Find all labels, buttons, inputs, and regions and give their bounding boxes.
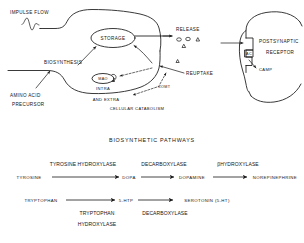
postsynaptic-cell-outline — [246, 12, 302, 103]
mao-catabolism-group: MAO INTRA AND EXTRA CELLULAR CATABOLISM — [92, 68, 165, 111]
compound-norepinephrine: NOREPINEPHRINE — [253, 175, 297, 180]
transmitter-particle — [186, 37, 191, 40]
presynaptic-neuron-outline — [8, 10, 161, 94]
enzyme-tryptophan-hydroxylase-line1: TRYPTOPHAN — [80, 210, 115, 216]
precursor-to-biosynthesis-arrow — [36, 71, 50, 88]
camp-label: CAMP — [259, 67, 272, 72]
reuptake-label: REUPTAKE — [186, 71, 213, 76]
enzyme-decarboxylase-2: DECARBOXYLASE — [142, 210, 188, 216]
precursor-label: PRECURSOR — [12, 102, 45, 107]
compound-dopa: DOPA — [122, 175, 135, 180]
transmitter-particle — [176, 60, 179, 63]
ac-label: AC — [246, 52, 252, 56]
enzyme-tyrosine-hydroxylase: TYROSINE HYDROXYLASE — [50, 161, 117, 167]
comt-dashed-arrow — [160, 73, 166, 84]
catecholamine-pathway-group: TYROSINE HYDROXYLASE DECARBOXYLASE βHYDR… — [16, 161, 297, 180]
neurotransmitter-diagram-figure: IMPULSE FLOW STORAGE BIOSYNTHESIS AMINO … — [0, 0, 304, 243]
mao-label: MAO — [98, 77, 107, 81]
compound-dopamine: DOPAMINE — [179, 175, 205, 180]
compound-5htp: 5-HTP — [119, 198, 133, 203]
enzyme-tryptophan-hydroxylase-line2: HYDROXYLASE — [78, 221, 117, 227]
biosynthesis-label: BIOSYNTHESIS — [44, 60, 82, 65]
postsynaptic-membrane-upper — [239, 31, 249, 93]
compound-serotonin: SEROTONIN (5-HT) — [184, 198, 230, 203]
impulse-flow-label: IMPULSE FLOW — [10, 10, 49, 15]
intra-label: INTRA — [96, 86, 110, 91]
enzyme-decarboxylase-1: DECARBOXYLASE — [141, 161, 187, 167]
impulse-flow-group: IMPULSE FLOW — [10, 10, 49, 31]
storage-label: STORAGE — [101, 36, 126, 41]
enzyme-beta-hydroxylase: βHYDROXYLASE — [217, 161, 259, 167]
transmitter-particle — [182, 44, 186, 47]
reuptake-group: REUPTAKE COMT — [158, 66, 213, 89]
reuptake-arrow — [160, 66, 184, 73]
comt-label: COMT — [158, 85, 171, 89]
catabolism-dashed-arrow-lower — [133, 86, 160, 95]
amino-acid-label: AMINO ACID — [10, 93, 41, 98]
postsynaptic-receptor-label-line1: POSTSYNAPTIC — [259, 39, 299, 44]
pathways-title: BIOSYNTHETIC PATHWAYS — [109, 137, 195, 143]
transmitter-particle — [177, 38, 182, 41]
release-group: RELEASE — [163, 27, 200, 63]
transmitter-particle — [196, 38, 200, 41]
action-potential-waveform — [22, 18, 39, 30]
indolamine-pathway-group: TRYPTOPHAN 5-HTP SEROTONIN (5-HT) TRYPTO… — [24, 198, 230, 227]
compound-tyrosine: TYROSINE — [16, 175, 41, 180]
compound-tryptophan: TRYPTOPHAN — [24, 198, 57, 203]
biosynthesis-group: BIOSYNTHESIS AMINO ACID PRECURSOR — [10, 60, 82, 107]
storage-vesicle-group: STORAGE — [78, 29, 172, 66]
camp-arrow — [249, 60, 256, 68]
cellular-catabolism-label: CELLULAR CATABOLISM — [110, 106, 165, 111]
postsynaptic-receptor-label-line2: RECEPTOR — [266, 50, 295, 55]
catabolism-dashed-arrow-upper — [120, 68, 152, 76]
postsynaptic-cell-group: AC CAMP POSTSYNAPTIC RECEPTOR — [221, 12, 302, 103]
release-label: RELEASE — [176, 27, 200, 32]
reuptake-to-storage-arrow — [134, 46, 152, 64]
and-extra-label: AND EXTRA — [93, 97, 120, 102]
